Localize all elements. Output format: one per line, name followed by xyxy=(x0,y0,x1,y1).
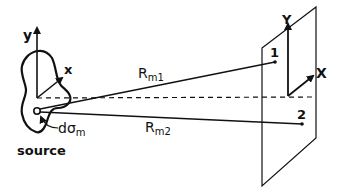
source-x-label: x xyxy=(64,62,73,77)
point-2-label: 2 xyxy=(297,107,306,122)
source-y-label: y xyxy=(23,27,32,43)
ray-r-m2-label: Rm2 xyxy=(145,119,171,137)
area-element-pointer xyxy=(41,117,58,128)
ray-r-m1-label: Rm1 xyxy=(138,65,164,83)
point-1-label: 1 xyxy=(270,45,279,60)
source-x-axis xyxy=(37,78,62,98)
point-2-dot xyxy=(300,122,304,126)
plane-y-label: Y xyxy=(281,12,292,27)
area-element-dot xyxy=(34,108,40,114)
diagram-canvas: y x dσm source Rm1 Rm2 Y X 1 2 xyxy=(0,0,341,196)
ray-r-m1 xyxy=(40,62,275,109)
optical-axis xyxy=(37,97,312,98)
area-element-label: dσm xyxy=(58,120,86,138)
plane-x-axis xyxy=(288,76,313,96)
plane-x-label: X xyxy=(316,65,327,81)
ray-r-m2 xyxy=(40,112,302,124)
point-1-dot xyxy=(273,60,277,64)
source-label: source xyxy=(17,143,66,158)
